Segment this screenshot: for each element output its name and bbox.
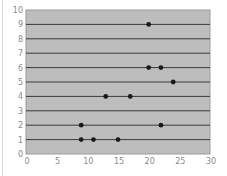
data-point	[146, 65, 151, 70]
x-tick-label: 25	[175, 157, 185, 166]
x-axis-tick-labels: 051015202530	[24, 157, 216, 166]
data-point	[171, 80, 176, 85]
y-tick-label: 8	[18, 35, 23, 44]
x-tick-label: 20	[145, 157, 155, 166]
data-point	[159, 123, 164, 128]
y-tick-label: 9	[18, 20, 23, 29]
data-point	[146, 22, 151, 27]
y-tick-label: 6	[18, 64, 23, 73]
y-tick-label: 7	[18, 49, 23, 58]
y-tick-label: 0	[18, 150, 23, 159]
y-tick-label: 10	[13, 6, 23, 15]
data-point	[159, 65, 164, 70]
data-point	[91, 137, 96, 142]
x-tick-label: 5	[55, 157, 60, 166]
data-point	[103, 94, 108, 99]
y-tick-label: 4	[18, 92, 23, 101]
y-tick-label: 1	[18, 136, 23, 145]
y-axis-tick-labels: 012345678910	[13, 6, 23, 159]
scatter-chart: 012345678910 051015202530	[0, 0, 227, 176]
data-point	[116, 137, 121, 142]
x-tick-label: 10	[83, 157, 93, 166]
y-tick-label: 5	[18, 78, 23, 87]
data-point	[128, 94, 133, 99]
x-tick-label: 15	[114, 157, 124, 166]
x-tick-label: 30	[206, 157, 216, 166]
data-point	[79, 123, 84, 128]
x-tick-label: 0	[24, 157, 29, 166]
y-tick-label: 2	[18, 121, 23, 130]
y-tick-label: 3	[18, 107, 23, 116]
data-point	[79, 137, 84, 142]
